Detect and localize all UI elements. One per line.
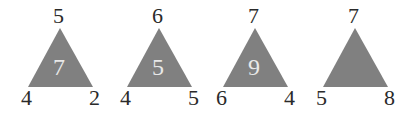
left-number: 4 [21, 87, 32, 109]
top-number: 7 [348, 5, 359, 27]
center-number: 5 [152, 55, 164, 79]
top-number: 7 [248, 5, 259, 27]
center-number: 9 [248, 55, 260, 79]
triangle-2: 6 4 5 5 [109, 0, 209, 113]
left-number: 6 [216, 87, 227, 109]
center-number: 7 [53, 55, 65, 79]
left-number: 5 [316, 87, 327, 109]
triangle-3: 7 6 4 9 [205, 0, 305, 113]
left-number: 4 [120, 87, 131, 109]
right-number: 8 [384, 87, 395, 109]
top-number: 6 [152, 5, 163, 27]
right-number: 4 [284, 87, 295, 109]
top-number: 5 [53, 5, 64, 27]
right-number: 5 [188, 87, 199, 109]
right-number: 2 [89, 87, 100, 109]
triangle-1: 5 4 2 7 [10, 0, 110, 113]
triangle-4: 7 5 8 [305, 0, 405, 113]
